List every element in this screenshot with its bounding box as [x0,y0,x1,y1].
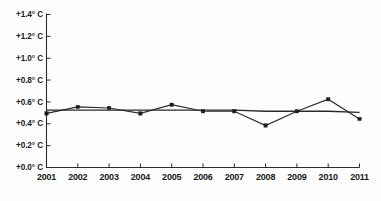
y-axis-tick-label: +1.0° C [16,54,43,63]
x-axis-tick-label: 2009 [287,172,306,182]
x-axis-tick-label: 2002 [68,172,87,182]
x-axis-tick-label: 2008 [256,172,275,182]
y-axis-tick-label: +0.2° C [16,141,43,150]
y-axis-tick-label: +1.4° C [16,10,43,19]
x-axis-tick-label: 2011 [350,172,369,182]
data-point-marker [233,110,236,113]
data-point-marker [170,103,173,106]
temperature-anomaly-chart: +0.0° C+0.2° C+0.4° C+0.6° C+0.8° C+1.0°… [0,0,381,201]
data-point-marker [76,105,79,108]
y-axis-tick-labels: +0.0° C+0.2° C+0.4° C+0.6° C+0.8° C+1.0°… [16,10,43,172]
data-point-marker [264,124,267,127]
data-point-marker [358,117,361,120]
data-point-marker [295,110,298,113]
x-axis-tick-label: 2004 [131,172,150,182]
chart-plot-area: +0.0° C+0.2° C+0.4° C+0.6° C+0.8° C+1.0°… [0,0,381,201]
data-point-marker [139,112,142,115]
y-axis-tick-label: +0.6° C [16,98,43,107]
temperature-series-markers [45,98,361,128]
x-axis-tick-marks [47,164,360,168]
y-axis-tick-label: +0.8° C [16,76,43,85]
y-axis-tick-label: +0.0° C [16,163,43,172]
x-axis-tick-label: 2010 [319,172,338,182]
data-point-marker [107,106,110,109]
y-axis-tick-label: +0.4° C [16,119,43,128]
x-axis-tick-label: 2003 [99,172,118,182]
x-axis-tick-labels: 2001200220032004200520062007200820092010… [37,172,369,182]
data-point-marker [201,110,204,113]
x-axis-tick-label: 2007 [225,172,244,182]
x-axis-tick-label: 2006 [193,172,212,182]
y-axis-tick-marks [47,15,51,168]
x-axis-tick-label: 2001 [37,172,56,182]
data-point-marker [45,112,48,115]
data-point-marker [327,98,330,101]
y-axis-tick-label: +1.2° C [16,32,43,41]
x-axis-tick-label: 2005 [162,172,181,182]
